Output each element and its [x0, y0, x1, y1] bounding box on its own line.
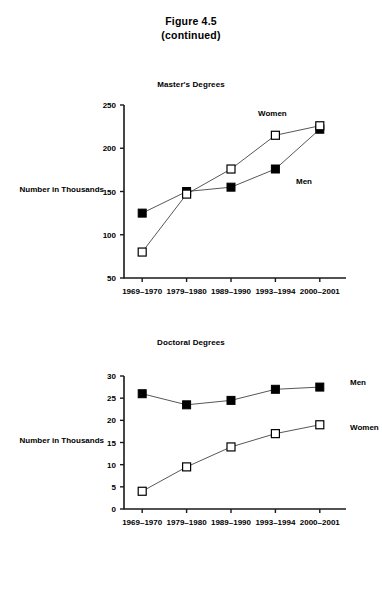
data-point-men: [138, 209, 146, 217]
figure-title-line2: (continued): [0, 28, 382, 42]
data-point-women: [271, 430, 279, 438]
data-point-men: [138, 390, 146, 398]
data-point-women: [227, 443, 235, 451]
data-point-women: [138, 487, 146, 495]
data-point-women: [227, 165, 235, 173]
data-point-men: [183, 401, 191, 409]
x-axis-tick-label: 2000–2001: [300, 287, 341, 296]
y-axis-tick-label: 100: [103, 231, 117, 240]
series-line-women: [142, 425, 320, 492]
y-axis-tick-label: 150: [103, 188, 117, 197]
data-point-women: [138, 248, 146, 256]
data-point-men: [271, 165, 279, 173]
data-point-men: [316, 383, 324, 391]
data-point-women: [183, 190, 191, 198]
y-axis-tick-label: 0: [112, 505, 117, 514]
x-axis-tick-label: 1969–1970: [122, 518, 163, 527]
data-point-men: [227, 396, 235, 404]
chart-panel-masters: Master's Degrees Number in Thousands 501…: [0, 80, 382, 310]
x-axis-tick-label: 1989–1990: [211, 287, 252, 296]
series-annotation-women: Women: [258, 109, 287, 118]
x-axis-tick-label: 1993–1994: [255, 287, 296, 296]
x-axis-tick-label: 1989–1990: [211, 518, 252, 527]
y-axis-tick-label: 50: [107, 274, 116, 283]
series-annotation-men: Men: [350, 378, 366, 387]
data-point-men: [227, 183, 235, 191]
data-point-men: [271, 385, 279, 393]
series-annotation-women: Women: [350, 423, 379, 432]
data-point-women: [316, 122, 324, 130]
figure-title-line1: Figure 4.5: [165, 15, 217, 27]
x-axis-tick-label: 1993–1994: [255, 518, 296, 527]
y-axis-tick-label: 15: [107, 439, 116, 448]
chart-svg-masters: 501001502002501969–19701979–19801989–199…: [0, 80, 382, 310]
y-axis-tick-label: 10: [107, 461, 116, 470]
y-axis-tick-label: 20: [107, 416, 116, 425]
x-axis-tick-label: 2000–2001: [300, 518, 341, 527]
data-point-women: [271, 131, 279, 139]
figure-title: Figure 4.5 (continued): [0, 14, 382, 42]
y-axis-tick-label: 250: [103, 101, 117, 110]
chart-svg-doctoral: 0510152025301969–19701979–19801989–19901…: [0, 338, 382, 568]
y-axis-tick-label: 25: [107, 394, 116, 403]
y-axis-tick-label: 30: [107, 372, 116, 381]
y-axis-tick-label: 200: [103, 144, 117, 153]
data-point-women: [316, 421, 324, 429]
data-point-women: [183, 463, 191, 471]
x-axis-tick-label: 1979–1980: [167, 518, 208, 527]
x-axis-tick-label: 1979–1980: [167, 287, 208, 296]
x-axis-tick-label: 1969–1970: [122, 287, 163, 296]
series-annotation-men: Men: [296, 177, 312, 186]
y-axis-tick-label: 5: [112, 483, 117, 492]
chart-panel-doctoral: Doctoral Degrees Number in Thousands 051…: [0, 338, 382, 568]
